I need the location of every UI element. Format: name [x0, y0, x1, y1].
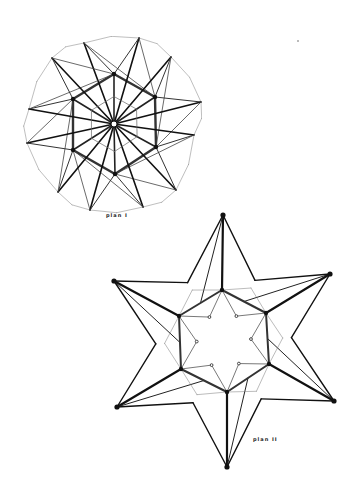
plan-ii-caption: plan II: [253, 436, 278, 442]
speck: [297, 40, 299, 42]
plan-ii-drawing: [111, 212, 336, 469]
plan-i-caption: plan I: [106, 212, 128, 218]
plan-drawings: [0, 0, 358, 496]
plan-i-drawing: [24, 36, 202, 212]
